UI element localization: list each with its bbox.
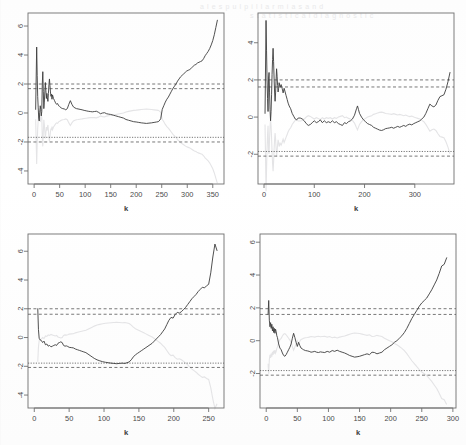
data-curve (36, 20, 218, 123)
x-tick-label: 0 (262, 190, 266, 199)
ghost-curve (38, 322, 217, 408)
y-tick-label: -4 (16, 168, 25, 175)
data-curve (268, 258, 447, 357)
x-tick-label: 250 (156, 190, 168, 199)
x-tick-label: 50 (65, 414, 73, 423)
x-tick-label: 100 (79, 190, 91, 199)
plot-box (260, 234, 456, 408)
x-tick-label: 50 (293, 414, 301, 423)
y-tick-label: 6 (16, 249, 25, 253)
x-tick-label: 200 (358, 190, 370, 199)
y-tick-label: -2 (16, 139, 25, 146)
y-tick-label: 2 (16, 82, 25, 86)
x-tick-label: 200 (384, 414, 396, 423)
ghost-curve (268, 333, 447, 405)
x-tick-label: 100 (98, 414, 110, 423)
y-tick-label: -4 (16, 392, 25, 399)
x-tick-label: 250 (202, 414, 214, 423)
x-tick-label: 250 (416, 414, 428, 423)
x-axis-title: k (356, 428, 361, 437)
plot-box (28, 234, 224, 408)
x-tick-label: 300 (409, 190, 421, 199)
y-tick-label: -2 (246, 151, 255, 158)
panel-bottom-left: 6420-2-4050100150200250k (0, 222, 233, 445)
plot-box (258, 13, 454, 184)
y-tick-label: 0 (16, 111, 25, 115)
y-tick-label: 4 (248, 273, 257, 277)
panel-top-left: 6420-2-4050100150200250300350k (0, 0, 233, 222)
plot-box (28, 13, 224, 184)
x-tick-label: 150 (353, 414, 365, 423)
panel-bottom-right: 6420-2050100150200250300k (233, 222, 466, 445)
x-tick-label: 300 (181, 190, 193, 199)
y-tick-label: -2 (16, 363, 25, 370)
y-tick-label: 6 (248, 240, 257, 244)
x-tick-label: 350 (207, 190, 219, 199)
x-axis-title: k (124, 428, 129, 437)
panel-top-right-canvas: 420-20100200300k (233, 0, 466, 222)
panel-bottom-left-canvas: 6420-2-4050100150200250k (0, 222, 233, 445)
x-tick-label: 100 (308, 190, 320, 199)
data-curve (265, 20, 450, 130)
x-tick-label: 150 (133, 414, 145, 423)
x-tick-label: 0 (32, 190, 36, 199)
y-tick-label: 6 (16, 24, 25, 28)
y-tick-label: 2 (246, 78, 255, 82)
x-axis-title: k (354, 204, 359, 213)
y-tick-label: 4 (246, 41, 255, 45)
x-tick-label: 0 (32, 414, 36, 423)
y-tick-label: 4 (16, 53, 25, 57)
x-tick-label: 100 (322, 414, 334, 423)
x-axis-title: k (124, 204, 129, 213)
y-tick-label: 2 (248, 306, 257, 310)
data-curve (38, 244, 217, 364)
y-tick-label: 0 (246, 115, 255, 119)
x-tick-label: 0 (264, 414, 268, 423)
x-tick-label: 300 (447, 414, 459, 423)
plot-grid: 6420-2-4050100150200250300350k 420-20100… (0, 0, 466, 445)
x-tick-label: 200 (168, 414, 180, 423)
y-tick-label: -2 (248, 370, 257, 377)
panel-top-right: 420-20100200300k (233, 0, 466, 222)
panel-top-left-canvas: 6420-2-4050100150200250300350k (0, 0, 233, 222)
y-tick-label: 0 (248, 339, 257, 343)
x-tick-label: 50 (56, 190, 64, 199)
panel-bottom-right-canvas: 6420-2050100150200250300k (233, 222, 466, 445)
ghost-curve (36, 109, 218, 183)
x-tick-label: 150 (105, 190, 117, 199)
y-tick-label: 4 (16, 278, 25, 282)
y-tick-label: 0 (16, 335, 25, 339)
y-tick-label: 2 (16, 307, 25, 311)
x-tick-label: 200 (130, 190, 142, 199)
